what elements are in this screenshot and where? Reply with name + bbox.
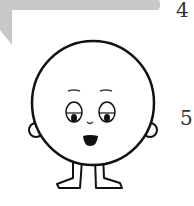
page-number-4: 4 xyxy=(176,0,189,20)
gray-banner xyxy=(0,0,160,45)
head xyxy=(32,41,154,165)
left-pupil xyxy=(71,114,77,122)
page-number-5: 5 xyxy=(180,108,193,128)
illustration xyxy=(0,0,194,206)
right-pupil xyxy=(104,114,110,122)
